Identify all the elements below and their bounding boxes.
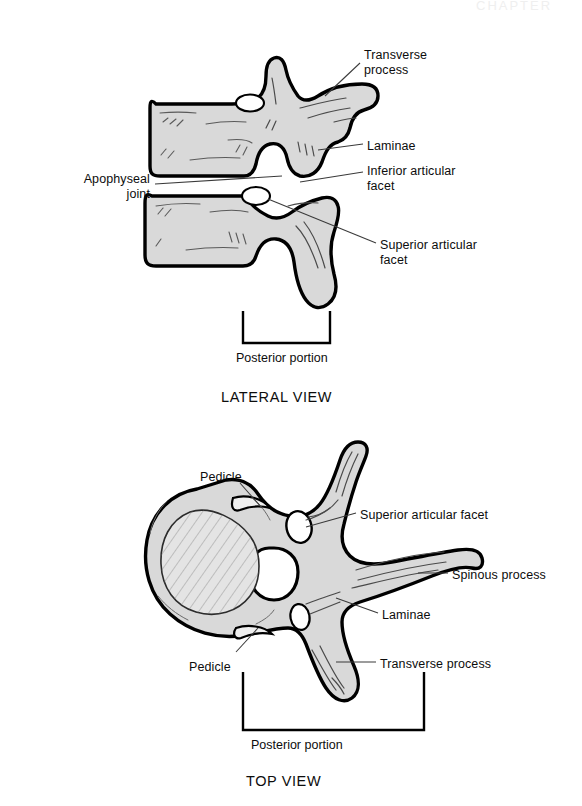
label-spinous-process: Spinous process <box>452 568 546 583</box>
label-laminae-top: Laminae <box>382 608 431 623</box>
lateral-lower-vertebra <box>145 187 339 307</box>
label-inferior-articular-facet: Inferior articular facet <box>367 164 456 194</box>
label-transverse-process-lateral: Transverse process <box>364 48 427 78</box>
lateral-upper-vertebra-outline <box>150 58 378 177</box>
label-laminae-lateral: Laminae <box>367 139 416 154</box>
label-superior-articular-facet-top: Superior articular facet <box>360 508 488 523</box>
lateral-lower-vertebra-outline <box>145 195 339 308</box>
lateral-view-group <box>145 58 378 344</box>
label-pedicle-lower: Pedicle <box>189 660 231 675</box>
lateral-superior-articular-facet-oval <box>242 187 270 205</box>
lateral-posterior-bracket <box>243 311 330 343</box>
label-pedicle-upper: Pedicle <box>200 470 242 485</box>
figure-page: CHAPTER <box>0 0 582 806</box>
lateral-upper-foramen <box>236 95 264 112</box>
top-view-group <box>146 442 483 730</box>
label-posterior-portion-lateral: Posterior portion <box>236 351 328 365</box>
label-transverse-process-top: Transverse process <box>380 657 491 672</box>
caption-top-view: TOP VIEW <box>246 773 321 789</box>
lateral-upper-vertebra <box>150 58 378 177</box>
label-apophyseal-joint: Apophyseal joint <box>30 172 150 202</box>
label-superior-articular-facet-lateral: Superior articular facet <box>380 238 477 268</box>
caption-lateral-view: LATERAL VIEW <box>221 389 332 405</box>
label-posterior-portion-top: Posterior portion <box>251 738 343 752</box>
